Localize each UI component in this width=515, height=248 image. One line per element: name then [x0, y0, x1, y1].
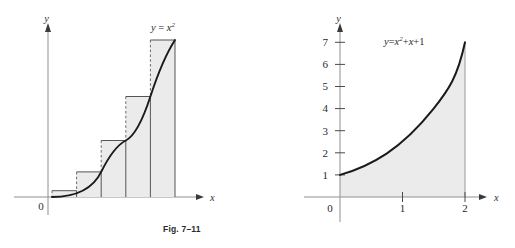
- y-axis-arrow: [45, 23, 51, 32]
- figure-7-12: 1 2 3 4 5 6 7 0 1 2 y x y=x2+x+1: [258, 0, 515, 248]
- figure-page: y x 0 y = x2 Fig. 7–11: [0, 0, 515, 248]
- x-axis-arrow: [196, 194, 204, 200]
- riemann-rect-4: [126, 97, 151, 198]
- y-tick-label-5: 5: [323, 80, 329, 92]
- y-tick-label-1: 1: [323, 169, 329, 181]
- curve-equation-label: y = x2: [150, 21, 176, 33]
- y-axis-arrow: [337, 23, 343, 32]
- x-tick-label-0: 0: [327, 202, 333, 214]
- x-axis-label: x: [209, 192, 215, 203]
- y-tick-label-6: 6: [323, 58, 329, 70]
- figure-7-11: y x 0 y = x2 Fig. 7–11: [0, 0, 258, 248]
- curve-equation-label: y=x2+x+1: [383, 35, 425, 47]
- y-axis-label: y: [43, 13, 49, 24]
- y-tick-label-3: 3: [323, 125, 329, 137]
- y-tick-labels: 1 2 3 4 5 6 7: [323, 36, 329, 181]
- riemann-rect-2: [77, 172, 102, 197]
- x-tick-labels: 0 1 2: [327, 202, 468, 214]
- riemann-rectangles: [52, 40, 175, 197]
- x-axis-arrow: [479, 194, 487, 200]
- origin-label: 0: [38, 200, 44, 212]
- y-tick-label-4: 4: [323, 102, 329, 114]
- x-tick-label-1: 1: [400, 202, 406, 214]
- x-axis-label: x: [493, 192, 499, 203]
- y-axis-label: y: [335, 13, 341, 24]
- x-tick-label-2: 2: [462, 202, 468, 214]
- riemann-rect-3: [101, 141, 126, 198]
- figure-7-12-plot: 1 2 3 4 5 6 7 0 1 2 y x y=x2+x+1: [258, 0, 515, 248]
- y-tick-label-7: 7: [323, 36, 329, 48]
- shaded-area-under-curve: [340, 42, 465, 197]
- figure-7-11-plot: y x 0 y = x2: [0, 0, 258, 248]
- figure-caption-left: Fig. 7–11: [163, 224, 201, 234]
- y-tick-label-2: 2: [323, 147, 329, 159]
